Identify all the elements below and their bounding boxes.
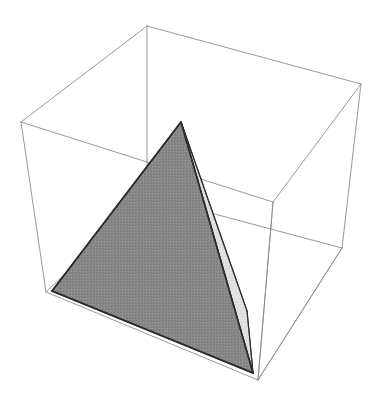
cube-edge-top-back-to-top-left [21, 26, 147, 122]
figure-container: Tetrahedron inscribed in a wireframe bou… [0, 0, 381, 401]
cube-edge-top-left-to-bottom-left [21, 122, 46, 292]
cube-edge-top-right-to-top-front [273, 84, 361, 202]
cube-edge-bottom-right-to-front-overlay [258, 248, 342, 380]
cube-edge-top-right-to-bottom-right [342, 84, 361, 248]
geometry-canvas: Tetrahedron inscribed in a wireframe bou… [0, 0, 381, 401]
cube-edge-front-pillar-overlay [258, 202, 273, 380]
cube-edge-top-back-to-top-right [147, 26, 361, 84]
shaded-tetrahedron [52, 122, 253, 373]
wireframe-overlay [258, 202, 342, 380]
